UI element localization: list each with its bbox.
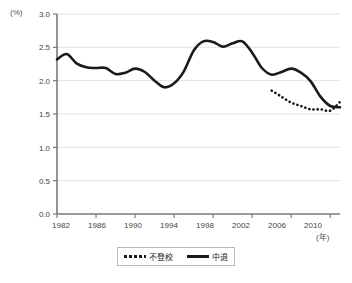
legend: 不登校 中退 (117, 247, 235, 266)
series-line-futoko (272, 91, 340, 111)
legend-item-futoko: 不登校 (124, 251, 173, 262)
axis-ticks (53, 14, 330, 218)
legend-item-chutai: 中退 (187, 251, 228, 262)
chart-container: (%) (年) 3.0 2.5 2.0 1.5 1.0 0.5 0.0 1982… (0, 0, 352, 283)
solid-line-swatch-icon (187, 255, 209, 258)
legend-label-chutai: 中退 (212, 251, 228, 262)
dotted-line-swatch-icon (124, 255, 146, 258)
series-line-chutai (57, 41, 340, 108)
legend-label-futoko: 不登校 (149, 251, 173, 262)
gridlines (57, 14, 340, 181)
plot-area (0, 0, 352, 283)
